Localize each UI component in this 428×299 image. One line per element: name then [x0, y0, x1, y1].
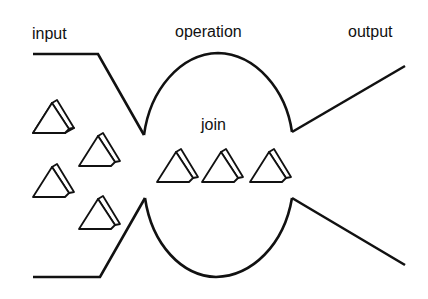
top-output-channel-line	[292, 66, 405, 132]
token-prism-icon	[202, 149, 243, 182]
bottom-output-channel-line	[292, 198, 405, 265]
token-prism-icon	[33, 100, 74, 133]
join-operation-diagram: input operation output join	[0, 0, 428, 299]
token-prism-icon	[250, 149, 291, 182]
token-prism-icon	[33, 164, 74, 197]
token-prism-icon	[79, 196, 120, 229]
bottom-input-channel-line	[33, 198, 145, 277]
operation-upper-arc	[144, 53, 292, 135]
operation-lower-arc	[145, 198, 292, 277]
token-prism-icon	[79, 133, 120, 166]
token-prism-icon	[157, 149, 198, 182]
diagram-graphics	[0, 0, 428, 299]
